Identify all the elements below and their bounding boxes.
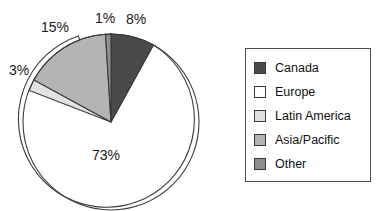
pie-label-asia-pacific: 15% (41, 20, 69, 34)
legend-swatch-latin-america (254, 110, 266, 122)
pie-chart-figure: 1% 8% 15% 3% 73% Canada Europe Latin Ame… (0, 0, 380, 211)
legend-item-asia-pacific[interactable]: Asia/Pacific (254, 128, 370, 152)
legend-item-latin-america[interactable]: Latin America (254, 104, 370, 128)
legend-label-latin-america: Latin America (275, 110, 351, 123)
legend-label-other: Other (275, 158, 306, 171)
legend-item-canada[interactable]: Canada (254, 56, 370, 80)
pie-svg (0, 0, 230, 211)
pie-label-latin-america: 3% (9, 63, 29, 77)
legend-label-canada: Canada (275, 62, 319, 75)
legend-item-europe[interactable]: Europe (254, 80, 370, 104)
legend-swatch-asia-pacific (254, 134, 266, 146)
legend-label-europe: Europe (275, 86, 315, 99)
pie-label-canada: 8% (126, 12, 146, 26)
legend-swatch-other (254, 158, 266, 170)
legend-label-asia-pacific: Asia/Pacific (275, 134, 340, 147)
legend-item-other[interactable]: Other (254, 152, 370, 176)
legend-swatch-canada (254, 62, 266, 74)
legend-box: Canada Europe Latin America Asia/Pacific… (245, 48, 371, 182)
pie-label-europe: 73% (92, 148, 120, 162)
legend-swatch-europe (254, 86, 266, 98)
pie-plot-area: 1% 8% 15% 3% 73% (0, 0, 230, 211)
pie-label-other: 1% (95, 11, 115, 25)
